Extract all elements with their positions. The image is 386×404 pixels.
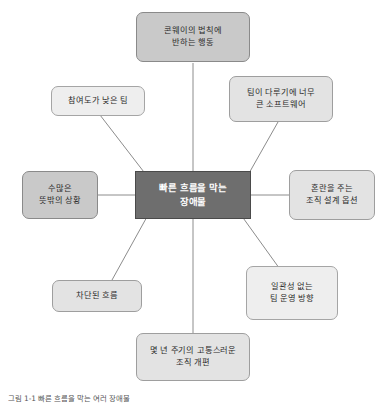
node-blocked-flow-label: 차단된 흐름 <box>76 290 118 302</box>
connector-center-to-bottom-right <box>241 215 282 272</box>
node-center-obstacles-label: 빠른 흐름을 막는 장애물 <box>159 181 228 209</box>
node-conway-violation-label: 콘웨이의 법칙에 반하는 행동 <box>164 25 222 49</box>
diagram-canvas: 콘웨이의 법칙에 반하는 행동 팀이 다루기에 너무 큰 소프트웨어 혼란을 주… <box>0 0 386 404</box>
node-many-surprises-label: 수많은 뜻밖의 상황 <box>39 183 81 207</box>
node-painful-reorg-label: 몇 년 주기의 고통스러운 조직 개편 <box>150 345 237 369</box>
node-blocked-flow[interactable]: 차단된 흐름 <box>52 280 142 312</box>
connector-center-to-top-right <box>248 122 278 175</box>
node-painful-reorg[interactable]: 몇 년 주기의 고통스러운 조직 개편 <box>136 333 250 381</box>
node-many-surprises[interactable]: 수많은 뜻밖의 상황 <box>22 171 98 219</box>
node-conway-violation[interactable]: 콘웨이의 법칙에 반하는 행동 <box>136 12 250 62</box>
node-center-obstacles[interactable]: 빠른 흐름을 막는 장애물 <box>135 171 251 219</box>
figure-caption: 그림 1-1 빠른 흐름을 막는 여러 장애물 <box>8 392 308 404</box>
node-low-engagement-team-label: 참여도가 낮은 팀 <box>68 95 128 107</box>
node-oversized-software-label: 팀이 다루기에 너무 큰 소프트웨어 <box>247 87 315 111</box>
node-inconsistent-direction-label: 일관성 없는 팀 운영 방향 <box>270 281 315 305</box>
connector-center-to-top-left <box>100 115 147 176</box>
connector-center-to-bottom-left <box>112 215 148 280</box>
node-oversized-software[interactable]: 팀이 다루기에 너무 큰 소프트웨어 <box>229 76 333 122</box>
node-confusing-org-design[interactable]: 혼란을 주는 조직 설계 옵션 <box>289 170 375 220</box>
node-low-engagement-team[interactable]: 참여도가 낮은 팀 <box>51 86 145 116</box>
node-confusing-org-design-label: 혼란을 주는 조직 설계 옵션 <box>306 183 358 207</box>
node-inconsistent-direction[interactable]: 일관성 없는 팀 운영 방향 <box>246 266 338 320</box>
